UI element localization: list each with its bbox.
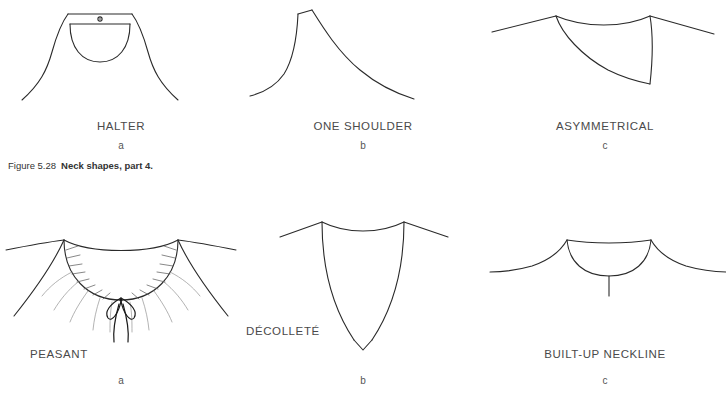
- panel-decollete: DÉCOLLETÉ b: [242, 200, 484, 400]
- panel-sublabel-built-up-neckline: c: [484, 375, 726, 386]
- figure-caption-number: Figure 5.28: [8, 160, 56, 171]
- figure-row-top: HALTER a ONE SHOULDER b: [0, 0, 726, 155]
- panel-label-halter: HALTER: [0, 120, 242, 132]
- panel-label-decollete: DÉCOLLETÉ: [242, 325, 484, 337]
- panel-label-one-shoulder: ONE SHOULDER: [242, 120, 484, 132]
- figure-caption-title: Neck shapes, part 4.: [61, 160, 153, 171]
- panel-peasant: PEASANT a: [0, 200, 242, 400]
- panel-label-asymmetrical: ASYMMETRICAL: [484, 120, 726, 132]
- panel-sublabel-halter: a: [0, 140, 242, 151]
- figure-page: HALTER a ONE SHOULDER b: [0, 0, 726, 400]
- figure-row-bottom: PEASANT a: [0, 200, 726, 400]
- one-shoulder-illustration: [242, 0, 484, 118]
- asymmetrical-illustration: [484, 0, 726, 118]
- panel-label-built-up-neckline: BUILT-UP NECKLINE: [484, 348, 726, 360]
- panel-sublabel-asymmetrical: c: [484, 140, 726, 151]
- panel-sublabel-decollete: b: [242, 375, 484, 386]
- peasant-illustration: [0, 200, 242, 350]
- panel-built-up-neckline: BUILT-UP NECKLINE c: [484, 200, 726, 400]
- figure-caption: Figure 5.28Neck shapes, part 4.: [8, 160, 153, 171]
- panel-sublabel-peasant: a: [0, 375, 242, 386]
- panel-one-shoulder: ONE SHOULDER b: [242, 0, 484, 155]
- built-up-neckline-illustration: [484, 200, 726, 350]
- decollete-illustration: [242, 200, 484, 370]
- panel-halter: HALTER a: [0, 0, 242, 155]
- panel-asymmetrical: ASYMMETRICAL c: [484, 0, 726, 155]
- halter-illustration: [0, 0, 242, 118]
- panel-sublabel-one-shoulder: b: [242, 140, 484, 151]
- panel-label-peasant: PEASANT: [0, 348, 242, 360]
